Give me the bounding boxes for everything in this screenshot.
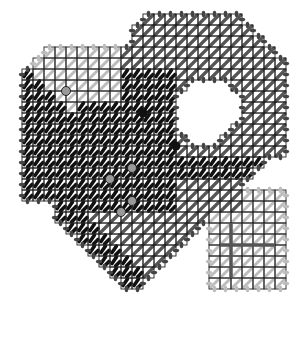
stitch-chart bbox=[0, 0, 300, 338]
stitch-cells bbox=[24, 15, 285, 288]
